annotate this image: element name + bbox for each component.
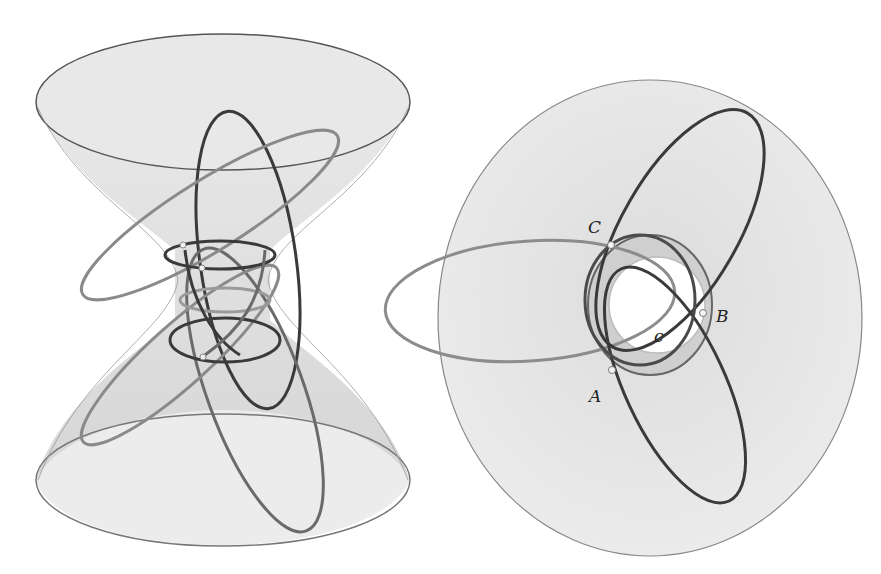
label-C: C — [588, 217, 601, 237]
top-view-disk: C B A c — [381, 80, 862, 556]
top-rim — [36, 34, 410, 170]
label-c: c — [654, 326, 664, 346]
label-B: B — [715, 306, 729, 326]
point-B — [700, 310, 707, 317]
hyperboloid — [36, 34, 410, 547]
figure: C B A c — [0, 0, 881, 574]
label-A: A — [587, 386, 601, 406]
point-C — [608, 242, 615, 249]
point-A — [609, 367, 616, 374]
